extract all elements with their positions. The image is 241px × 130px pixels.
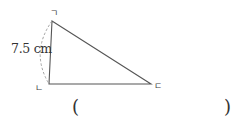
vertex-label-top: ㄱ [50,6,58,19]
problem-figure: 7.5 cm ㄱ ㄴ ㄷ ( ) [0,0,241,130]
vertex-label-bottom-left: ㄴ [35,81,43,94]
answer-blank[interactable] [88,98,220,120]
triangle-shape [49,21,151,84]
side-length-label: 7.5 cm [11,41,52,56]
vertex-label-right: ㄷ [154,79,162,92]
answer-open-paren: ( [72,96,79,117]
answer-close-paren: ) [224,96,231,117]
